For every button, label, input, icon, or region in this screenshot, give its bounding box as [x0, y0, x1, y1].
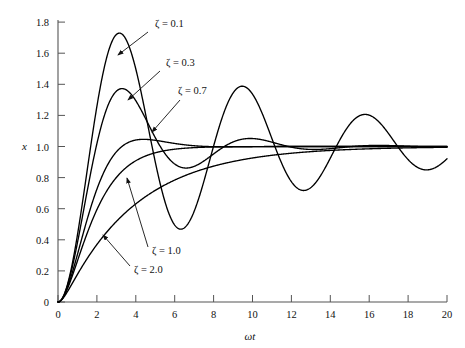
leader-line	[152, 100, 180, 132]
x-tick-label: 10	[247, 309, 258, 320]
x-tick-label: 6	[172, 309, 177, 320]
y-tick-label: 1.2	[36, 110, 49, 121]
x-tick-label: 4	[133, 309, 139, 320]
chart-figure: 0 2 4 6 8 10 12 14 16 18 20 0 0.2 0.4 0.…	[0, 0, 465, 348]
curve-zeta-0-3	[58, 89, 447, 302]
y-tick-label: 1.8	[36, 17, 49, 28]
y-tick-label: 1.6	[36, 48, 49, 59]
leader-line	[127, 178, 148, 247]
y-axis-ticks	[58, 22, 65, 302]
x-axis-ticks	[58, 295, 447, 302]
x-tick-labels: 0 2 4 6 8 10 12 14 16 18 20	[55, 309, 452, 320]
response-curves	[58, 33, 447, 302]
x-tick-label: 8	[211, 309, 216, 320]
curve-label-zeta-0-7: ζ = 0.7	[178, 85, 207, 97]
y-tick-label: 0.4	[36, 235, 50, 246]
x-tick-label: 20	[442, 309, 453, 320]
curve-label-zeta-1-0: ζ = 1.0	[152, 245, 181, 257]
step-response-plot: 0 2 4 6 8 10 12 14 16 18 20 0 0.2 0.4 0.…	[0, 0, 465, 348]
y-tick-label: 0	[44, 297, 49, 308]
curve-label-zeta-2-0: ζ = 2.0	[134, 264, 163, 276]
curve-zeta-1	[58, 147, 447, 303]
y-tick-label: 0.6	[36, 204, 49, 215]
x-tick-label: 16	[364, 309, 375, 320]
x-axis-label: ωt	[245, 330, 257, 342]
x-tick-label: 0	[55, 309, 60, 320]
curve-label-zeta-0-1: ζ = 0.1	[155, 18, 184, 30]
x-tick-label: 18	[403, 309, 414, 320]
x-tick-label: 14	[325, 309, 336, 320]
y-tick-label: 0.2	[36, 266, 49, 277]
leader-line	[128, 71, 160, 100]
y-axis-label: x	[21, 140, 27, 152]
y-tick-label: 1.0	[36, 142, 49, 153]
y-tick-labels: 0 0.2 0.4 0.6 0.8 1.0 1.2 1.4 1.6 1.8	[36, 17, 50, 308]
axis-lines	[58, 20, 447, 302]
x-tick-label: 12	[286, 309, 297, 320]
curve-zeta-0-1	[58, 33, 447, 302]
curve-label-zeta-0-3: ζ = 0.3	[166, 57, 195, 69]
x-tick-label: 2	[94, 309, 99, 320]
curve-zeta-2	[58, 147, 447, 302]
y-tick-label: 1.4	[36, 79, 50, 90]
y-tick-label: 0.8	[36, 173, 49, 184]
leader-line	[103, 235, 130, 266]
